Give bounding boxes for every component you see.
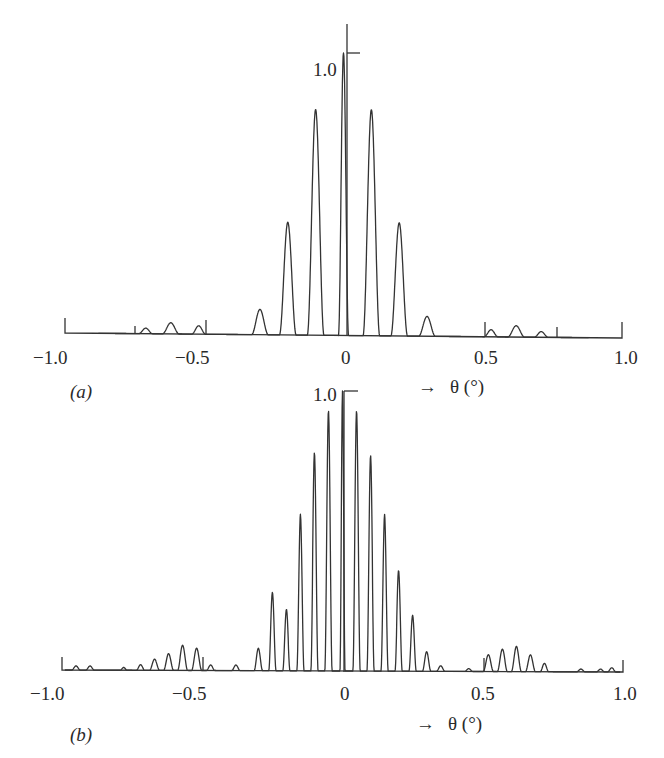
tick-label-05-a: 0.5: [474, 347, 498, 368]
arrow-icon-a: →: [418, 376, 437, 397]
tick-label-minus1-b: −1.0: [30, 683, 64, 704]
y-top-label-a: 1.0: [313, 59, 337, 80]
y-top-label-b: 1.0: [313, 384, 337, 405]
panel-label-b: (b): [70, 724, 92, 746]
pattern-curve-b: [65, 391, 620, 672]
tick-label-0-b: 0: [340, 683, 350, 704]
tick-label-05-b: 0.5: [471, 683, 495, 704]
tick-label-minus1-a: −1.0: [33, 347, 67, 368]
panel-b: 1.0 −1.0 −0.5 0 0.5 1.0 → θ (°) (b): [30, 384, 637, 746]
panel-a: 1.0 −1.0 −0.5 0 0.5 1.0 → θ (°) (a): [33, 24, 638, 403]
tick-label-minus05-b: −0.5: [172, 683, 206, 704]
tick-label-0-a: 0: [341, 347, 351, 368]
arrow-icon-b: →: [416, 713, 435, 734]
tick-label-1-b: 1.0: [613, 683, 637, 704]
x-axis-a: [65, 318, 622, 338]
tick-label-minus05-a: −0.5: [175, 347, 209, 368]
axis-title-b: θ (°): [448, 713, 482, 735]
panel-label-a: (a): [70, 381, 92, 403]
axis-title-a: θ (°): [450, 376, 484, 398]
pattern-curve-a: [98, 53, 588, 338]
tick-label-1-a: 1.0: [614, 347, 638, 368]
figure: 1.0 −1.0 −0.5 0 0.5 1.0 → θ (°) (a) 1.0 …: [0, 0, 664, 758]
x-axis-b: [62, 657, 623, 672]
